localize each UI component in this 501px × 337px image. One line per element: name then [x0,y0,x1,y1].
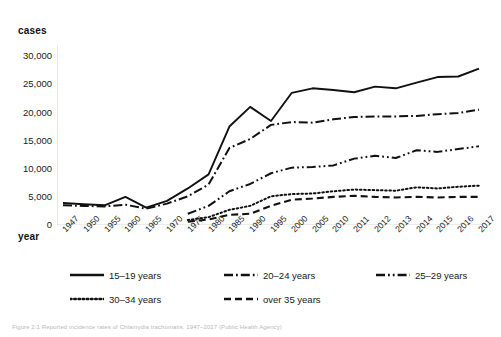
legend-item-3[interactable]: 25–29 years [376,268,467,282]
legend-item-1[interactable]: 15–19 years [70,268,161,282]
y-axis-tick: 20,000 [6,108,52,118]
y-axis-tick: 15,000 [6,136,52,146]
y-axis-tick: 0 [6,220,52,230]
legend-swatch-dashdotdot [376,270,410,280]
legend-swatch-dashed [224,294,258,304]
legend-label: 30–34 years [109,294,161,305]
legend-label: over 35 years [263,294,321,305]
x-axis-title: year [18,231,39,242]
legend-item-5[interactable]: over 35 years [224,292,321,306]
y-axis-tick: 5,000 [6,192,52,202]
y-axis-tick: 25,000 [6,79,52,89]
figure-caption: Figure 2.1 Reported incidence rates of C… [12,324,282,330]
legend-swatch-dotted [70,294,104,304]
legend-item-2[interactable]: 20–24 years [224,268,315,282]
chart-legend: 15–19 years20–24 years25–29 years30–34 y… [56,268,496,314]
series-line-3 [188,146,479,214]
plot-area [57,45,487,225]
legend-swatch-dashdot [224,270,258,280]
y-axis-tick-labels: 30,00025,00020,00015,00010,0005,0000 [2,0,52,337]
legend-label: 15–19 years [109,270,161,281]
legend-label: 20–24 years [263,270,315,281]
y-axis-tick: 30,000 [6,51,52,61]
x-axis-tick-labels: 1947195019551960196519701975198019851990… [57,225,487,265]
legend-swatch-solid [70,270,104,280]
chart-lines-svg [57,45,487,225]
legend-item-4[interactable]: 30–34 years [70,292,161,306]
legend-label: 25–29 years [415,270,467,281]
series-line-2 [63,110,479,209]
series-line-5 [188,196,479,222]
y-axis-tick: 10,000 [6,164,52,174]
chart-figure: cases 30,00025,00020,00015,00010,0005,00… [0,0,501,337]
